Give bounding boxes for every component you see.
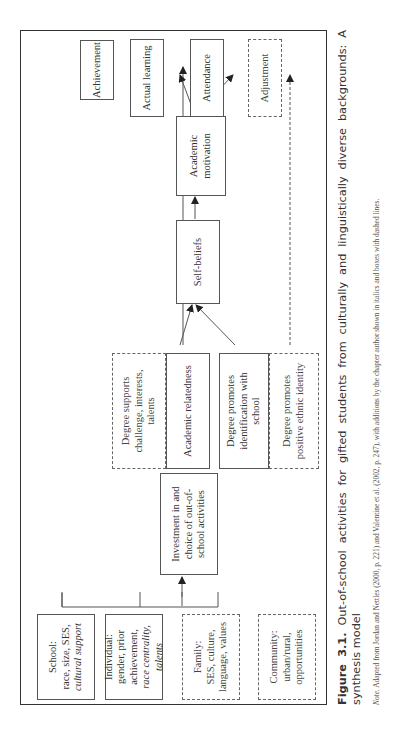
investment-box: Investment in and choice of out-of-schoo…: [160, 473, 218, 575]
mediator-challenge-label: Degree supports challenge, interests, ta…: [120, 358, 158, 464]
academic-motivation-box: Academic motivation: [176, 116, 226, 196]
outcome-box-attendance: Attendance: [190, 39, 224, 117]
individual-title: Individual:: [103, 634, 116, 680]
adjustment-label: Adjustment: [259, 54, 272, 103]
figure-note: Note. Adapted from Jordan and Nettles (2…: [372, 30, 381, 705]
investment-label: Investment in and choice of out-of-schoo…: [170, 478, 208, 570]
mediator-box-academic-relatedness: Academic relatedness: [166, 353, 210, 469]
actual-learning-label: Actual learning: [141, 46, 154, 111]
family-factors: SES, culture, language, values: [205, 619, 230, 695]
family-title: Family:: [192, 641, 205, 674]
mediator-box-identification: Degree promotes identification with scho…: [219, 353, 269, 469]
self-beliefs-label: Self-beliefs: [192, 238, 205, 286]
figure-label: Figure 3.1.: [336, 633, 349, 706]
academic-motivation-label: Academic motivation: [188, 121, 213, 191]
input-box-community: Community: urban/rural, opportunities: [258, 614, 316, 700]
school-italic-factors: cultural support: [72, 623, 85, 691]
mediator-identification-label: Degree promotes identification with scho…: [225, 358, 263, 464]
outcome-box-adjustment: Adjustment: [248, 39, 282, 117]
community-title: Community:: [268, 630, 281, 683]
school-title: School:: [47, 641, 60, 673]
achievement-label: Achievement: [91, 42, 104, 98]
figure-caption: Figure 3.1. Out-of-school activities for…: [336, 30, 364, 705]
self-beliefs-box: Self-beliefs: [176, 220, 220, 304]
figure-title: Out-of-school activities for gifted stud…: [336, 30, 363, 705]
attendance-label: Attendance: [201, 54, 214, 102]
note-text: Adapted from Jordan and Nettles (2000, p…: [372, 199, 381, 688]
outcome-box-achievement: Achievement: [80, 40, 114, 100]
individual-factors: gender, prior achievement,: [115, 619, 140, 695]
figure-page: School: race, size, SES, cultural suppor…: [0, 0, 412, 737]
individual-italic-factors: race centrality, talents: [140, 619, 165, 695]
input-box-family: Family: SES, culture, language, values: [182, 614, 240, 700]
mediator-relatedness-label: Academic relatedness: [182, 365, 195, 457]
input-box-individual: Individual: gender, prior achievement, r…: [105, 614, 163, 700]
mediator-box-challenge: Degree supports challenge, interests, ta…: [112, 353, 166, 469]
school-factors: race, size, SES,: [60, 624, 73, 689]
mediator-ethnic-label: Degree promotes positive ethnic identity: [281, 358, 306, 464]
outcome-box-actual-learning: Actual learning: [130, 39, 164, 117]
mediator-box-ethnic-identity: Degree promotes positive ethnic identity: [269, 353, 319, 469]
input-box-school: School: race, size, SES, cultural suppor…: [37, 614, 95, 700]
note-label: Note.: [372, 689, 381, 705]
community-factors: urban/rural, opportunities: [281, 619, 306, 695]
